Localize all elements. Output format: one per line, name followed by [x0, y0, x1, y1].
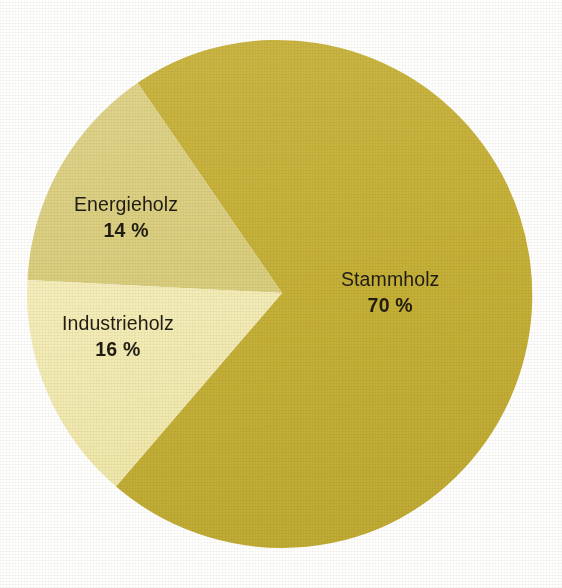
slice-label-energieholz-name: Energieholz [74, 193, 178, 217]
slice-label-energieholz-value: 14 % [74, 219, 178, 243]
slice-label-stammholz-name: Stammholz [341, 268, 439, 292]
pie-chart-svg [0, 0, 562, 588]
slice-label-stammholz-value: 70 % [341, 294, 439, 318]
slice-label-industrieholz-name: Industrieholz [62, 312, 174, 336]
slice-label-industrieholz-value: 16 % [62, 338, 174, 362]
pie-chart: Stammholz 70 % Energieholz 14 % Industri… [0, 0, 562, 588]
slice-label-energieholz: Energieholz 14 % [74, 193, 178, 243]
pie-slices-group [26, 40, 532, 550]
slice-label-industrieholz: Industrieholz 16 % [62, 312, 174, 362]
slice-label-stammholz: Stammholz 70 % [341, 268, 439, 318]
